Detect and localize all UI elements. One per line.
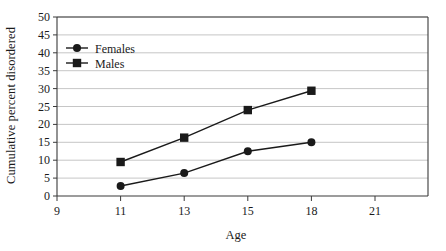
y-tick-label: 25 — [38, 100, 50, 114]
data-point-marker — [307, 138, 315, 146]
data-point-marker — [244, 106, 252, 114]
y-axis-title-text: Cumulative percent disordered — [4, 26, 19, 183]
y-tick-label: 20 — [38, 117, 50, 131]
legend-label-females: Females — [95, 42, 135, 56]
x-tick-label: 11 — [115, 204, 127, 218]
series-males — [116, 87, 315, 167]
data-series-group — [116, 87, 315, 190]
x-tick-label: 13 — [178, 204, 190, 218]
x-axis-title: Age — [0, 228, 446, 243]
x-tick-marks-group — [57, 196, 375, 201]
y-tick-marks-group — [53, 17, 57, 196]
legend-marker-males — [73, 59, 81, 67]
data-point-marker — [180, 133, 188, 141]
x-tick-label: 9 — [54, 204, 60, 218]
series-females — [117, 138, 316, 190]
y-axis-title: Cumulative percent disordered — [0, 0, 22, 210]
x-tick-label: 18 — [305, 204, 317, 218]
plot-canvas: 05101520253035404550 91113151821 Females… — [0, 0, 446, 251]
x-tick-label: 21 — [369, 204, 381, 218]
chart-figure: Cumulative percent disordered 0510152025… — [0, 0, 446, 251]
data-point-marker — [116, 158, 124, 166]
series-line — [121, 142, 312, 186]
x-axis-title-text: Age — [200, 228, 247, 242]
series-line — [121, 91, 312, 162]
y-tick-label: 45 — [38, 28, 50, 42]
x-tick-label: 15 — [242, 204, 254, 218]
x-tick-labels-group: 91113151821 — [54, 204, 381, 218]
y-tick-label: 0 — [44, 189, 50, 203]
y-tick-label: 40 — [38, 46, 50, 60]
y-tick-label: 5 — [44, 171, 50, 185]
y-tick-label: 10 — [38, 153, 50, 167]
data-point-marker — [117, 182, 125, 190]
y-tick-label: 35 — [38, 64, 50, 78]
data-point-marker — [244, 147, 252, 155]
data-point-marker — [180, 169, 188, 177]
y-tick-label: 30 — [38, 82, 50, 96]
chart-legend: FemalesMales — [66, 42, 135, 71]
legend-label-males: Males — [95, 57, 125, 71]
legend-marker-females — [73, 44, 81, 52]
y-tick-labels-group: 05101520253035404550 — [38, 10, 50, 203]
y-tick-label: 50 — [38, 10, 50, 24]
data-point-marker — [307, 87, 315, 95]
y-tick-label: 15 — [38, 135, 50, 149]
